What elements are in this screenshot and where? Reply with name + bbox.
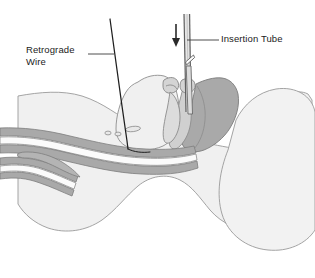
label-insertion-tube: Insertion Tube xyxy=(221,33,283,45)
down-arrow-icon xyxy=(172,24,180,47)
label-retrograde-wire: Retrograde Wire xyxy=(26,44,75,67)
retrograde-intubation-figure: Retrograde Wire Insertion Tube xyxy=(0,0,315,278)
